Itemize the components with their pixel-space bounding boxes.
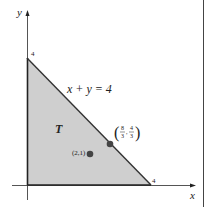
point-8-3-4-3-label: ( 8 3 , 4 3 ) <box>114 124 140 142</box>
y-axis-arrow-icon <box>26 10 30 16</box>
y-axis-label: y <box>16 6 22 18</box>
region-label: T <box>55 122 63 136</box>
svg-text:8: 8 <box>121 125 124 131</box>
point-2-1 <box>87 151 94 158</box>
x-axis-label: x <box>189 189 195 201</box>
svg-text:,: , <box>126 129 128 135</box>
svg-text:4: 4 <box>130 125 133 131</box>
x-axis-arrow-icon <box>190 184 196 188</box>
line-equation-label: x + y = 4 <box>66 82 112 96</box>
point-8-3-4-3 <box>107 141 114 148</box>
y-intercept-tick: 4 <box>31 50 35 58</box>
svg-text:3: 3 <box>121 133 124 139</box>
point-2-1-label: (2,1) <box>72 149 86 157</box>
svg-text:3: 3 <box>130 133 133 139</box>
diagram-canvas: y x 4 4 x + y = 4 T (2,1) ( 8 3 , 4 3 ) <box>0 0 205 207</box>
svg-text:): ) <box>135 124 140 142</box>
x-intercept-tick: 4 <box>152 177 156 185</box>
svg-text:(: ( <box>114 124 119 142</box>
